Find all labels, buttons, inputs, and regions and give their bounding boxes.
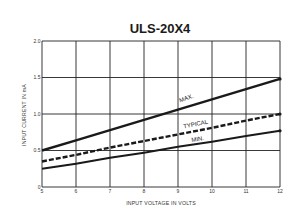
chart-title: ULS-20X4 <box>130 21 191 36</box>
x-tick-label: 12 <box>277 188 283 194</box>
series-label-min: MIN. <box>191 135 205 143</box>
y-tick-label: 0 <box>38 184 41 190</box>
end-point <box>278 129 281 132</box>
y-tick-label: 0.5 <box>34 147 41 153</box>
series-labels: MAX.TYPICALMIN. <box>178 93 209 143</box>
x-tick-label: 11 <box>243 188 248 194</box>
series-line-max <box>42 79 280 151</box>
series-label-typical: TYPICAL <box>183 119 209 130</box>
x-tick-label: 5 <box>41 188 44 194</box>
end-point <box>278 112 281 115</box>
y-tick-labels: 00.51.01.52.0 <box>34 38 41 190</box>
end-point <box>278 77 281 80</box>
x-tick-label: 9 <box>177 188 180 194</box>
x-tick-label: 6 <box>75 188 78 194</box>
y-axis-label: INPUT CURRENT IN mA <box>21 84 27 146</box>
x-tick-labels: 56789101112 <box>41 188 283 194</box>
x-tick-label: 8 <box>143 188 146 194</box>
y-tick-label: 1.0 <box>34 111 41 117</box>
x-tick-label: 7 <box>109 188 112 194</box>
y-tick-label: 2.0 <box>34 38 41 44</box>
y-tick-label: 1.5 <box>34 74 41 80</box>
series-line-typical <box>42 114 280 161</box>
x-axis-label: INPUT VOLTAGE IN VOLTS <box>126 200 196 206</box>
series-line-min <box>42 131 280 169</box>
series-label-max: MAX. <box>178 93 194 104</box>
chart: ULS-20X4 56789101112 00.51.01.52.0 MAX.T… <box>0 0 294 223</box>
x-tick-label: 10 <box>209 188 215 194</box>
